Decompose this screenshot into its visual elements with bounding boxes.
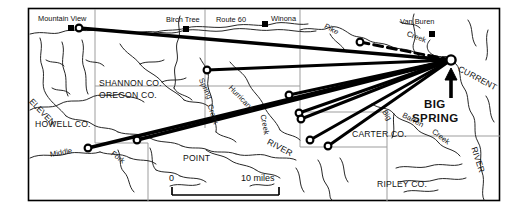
place-label-birch-tree: Birch Tree <box>166 15 200 24</box>
big-spring-label-line1: BIG <box>424 98 446 110</box>
injection-point-eleven-point <box>134 137 141 144</box>
injection-point-mountain-view <box>76 25 83 32</box>
town-marker-birch-tree <box>183 26 189 32</box>
injection-point-river-south <box>307 137 314 144</box>
injection-point-pike-creek <box>357 39 364 46</box>
place-label-winona: Winona <box>271 14 296 23</box>
road-label-route-60: Route 60 <box>216 15 246 24</box>
injection-point-hurricane-upper <box>286 92 293 99</box>
county-label-carter: CARTER CO. <box>352 129 407 139</box>
town-marker-winona <box>262 21 268 27</box>
big-spring-dye-trace-map: Mountain View Birch Tree Winona Van Bure… <box>0 0 515 223</box>
scale-bar-max-label: 10 miles <box>241 173 275 183</box>
injection-point-carter-west <box>325 143 332 150</box>
place-label-mountain-view: Mountain View <box>38 14 86 23</box>
scale-bar-zero-label: 0 <box>169 173 174 183</box>
injection-point-middle-fork-west <box>85 145 92 152</box>
county-label-ripley: RIPLEY CO. <box>377 179 427 189</box>
water-label-point: POINT <box>183 153 210 163</box>
place-label-van-buren: Van Buren <box>400 17 434 26</box>
county-label-shannon: SHANNON CO. <box>99 78 162 88</box>
town-marker-van-buren <box>429 31 435 37</box>
injection-point-shannon-north <box>204 67 211 74</box>
town-marker-mountain-view <box>68 25 74 31</box>
county-label-oregon: OREGON CO. <box>99 90 157 100</box>
injection-point-creek-east <box>298 116 305 123</box>
big-spring-marker <box>446 55 455 64</box>
